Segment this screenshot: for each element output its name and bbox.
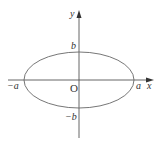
bottom-vertex-label: −b — [65, 111, 77, 122]
top-vertex-label: b — [71, 40, 76, 51]
ellipse-diagram: y x O a −a b −b — [0, 0, 162, 145]
right-vertex-label: a — [136, 80, 141, 91]
y-axis-arrow-icon — [77, 10, 82, 18]
origin-label: O — [70, 82, 78, 94]
x-axis-label: x — [146, 80, 152, 91]
y-axis-label: y — [69, 8, 75, 19]
left-vertex-label: −a — [7, 80, 19, 91]
